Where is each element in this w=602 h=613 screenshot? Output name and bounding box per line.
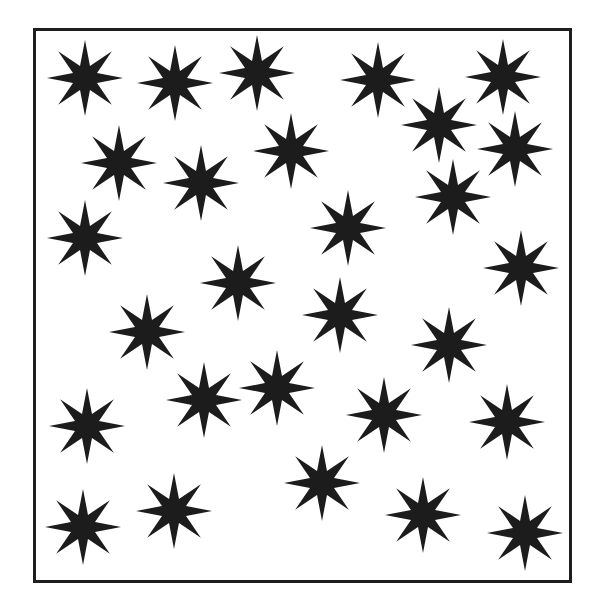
stars-layer bbox=[0, 0, 602, 613]
star-icon bbox=[284, 445, 360, 521]
star-icon bbox=[239, 350, 315, 426]
star-icon bbox=[137, 45, 213, 121]
star-icon bbox=[483, 230, 559, 306]
star-icon bbox=[166, 362, 242, 438]
star-icon bbox=[219, 35, 295, 111]
star-icon bbox=[81, 125, 157, 201]
star-figure bbox=[0, 0, 602, 613]
star-icon bbox=[302, 277, 378, 353]
star-icon bbox=[49, 388, 125, 464]
star-icon bbox=[47, 40, 123, 116]
star-icon bbox=[346, 377, 422, 453]
star-icon bbox=[411, 307, 487, 383]
star-icon bbox=[340, 42, 416, 118]
star-icon bbox=[253, 113, 329, 189]
star-icon bbox=[401, 87, 477, 163]
star-icon bbox=[200, 245, 276, 321]
star-icon bbox=[477, 111, 553, 187]
star-icon bbox=[415, 159, 491, 235]
star-icon bbox=[109, 294, 185, 370]
star-icon bbox=[45, 489, 121, 565]
star-icon bbox=[465, 39, 541, 115]
star-icon bbox=[163, 145, 239, 221]
star-icon bbox=[385, 477, 461, 553]
star-icon bbox=[310, 190, 386, 266]
star-icon bbox=[47, 200, 123, 276]
star-icon bbox=[487, 495, 563, 571]
star-icon bbox=[136, 473, 212, 549]
star-icon bbox=[469, 384, 545, 460]
